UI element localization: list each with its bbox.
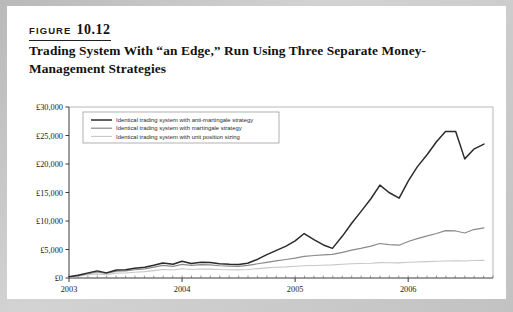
figure-title: Trading System With “an Edge,” Run Using…	[29, 42, 459, 77]
x-tick-label: 2004	[174, 285, 191, 294]
legend-label: Identical trading system with unit posit…	[116, 134, 240, 140]
figure-label-number: 10.12	[77, 22, 111, 37]
x-tick-label: 2006	[400, 285, 417, 294]
y-tick-label: £0	[55, 274, 63, 283]
line-chart: £0£5,000£10,000£15,000£20,000£25,000£30,…	[17, 98, 502, 294]
chart-container: £0£5,000£10,000£15,000£20,000£25,000£30,…	[17, 98, 502, 294]
figure-card: FIGURE10.12 Trading System With “an Edge…	[7, 6, 506, 299]
y-tick-label: £15,000	[36, 189, 63, 198]
y-tick-label: £20,000	[36, 160, 63, 169]
series-line	[69, 228, 484, 277]
series-line	[69, 132, 484, 277]
legend-label: Identical trading system with anti-marti…	[116, 117, 253, 123]
y-tick-label: £5,000	[40, 246, 63, 255]
figure-outer-frame: FIGURE10.12 Trading System With “an Edge…	[0, 0, 513, 312]
figure-label-word: FIGURE	[29, 25, 72, 36]
figure-label: FIGURE10.12	[29, 20, 111, 41]
x-tick-label: 2003	[61, 285, 78, 294]
x-tick-label: 2005	[287, 285, 304, 294]
y-tick-label: £25,000	[36, 132, 63, 141]
y-tick-label: £10,000	[36, 217, 63, 226]
y-tick-label: £30,000	[36, 103, 63, 112]
legend-label: Identical trading system with martingale…	[116, 125, 242, 131]
